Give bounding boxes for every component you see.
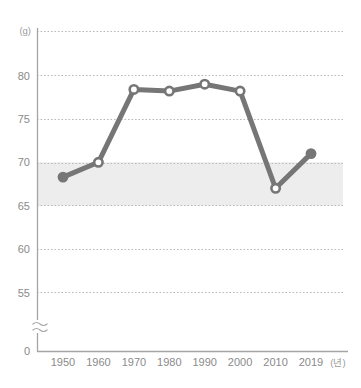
data-point-1950 (58, 172, 69, 183)
y-tick-label-75: 75 (18, 113, 30, 125)
x-axis-unit-label: (년) (330, 357, 345, 368)
y-tick-label-zero: 0 (24, 345, 30, 357)
y-tick-label-55: 55 (18, 287, 30, 299)
data-point-1960 (94, 158, 102, 166)
x-tick-label-2010: 2010 (263, 356, 287, 368)
y-tick-label-80: 80 (18, 70, 30, 82)
y-axis-unit-label: (g) (19, 25, 31, 36)
x-tick-label-1990: 1990 (192, 356, 216, 368)
y-tick-label-65: 65 (18, 200, 30, 212)
x-tick-label-2019: 2019 (299, 356, 323, 368)
y-tick-label-60: 60 (18, 243, 30, 255)
data-point-1990 (201, 80, 209, 88)
data-point-1980 (165, 87, 173, 95)
x-tick-label-1970: 1970 (122, 356, 146, 368)
x-tick-label-2000: 2000 (228, 356, 252, 368)
data-point-2019 (306, 148, 317, 159)
data-point-2010 (271, 184, 279, 192)
data-point-2000 (236, 87, 244, 95)
chart-svg: 807570656055 0 1950196019701980199020002… (0, 0, 361, 388)
x-tick-label-1950: 1950 (51, 356, 75, 368)
line-chart: 807570656055 0 1950196019701980199020002… (0, 0, 361, 388)
y-tick-label-70: 70 (18, 156, 30, 168)
x-tick-label-1960: 1960 (86, 356, 110, 368)
data-point-1970 (130, 85, 138, 93)
x-tick-label-1980: 1980 (157, 356, 181, 368)
